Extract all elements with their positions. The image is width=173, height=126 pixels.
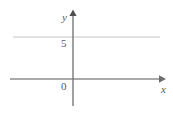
x-axis-label: x [161,84,166,95]
x-axis-arrowhead-icon [159,75,166,83]
y-axis-arrowhead-icon [69,10,76,17]
y-axis-label: y [62,12,67,23]
origin-label: 0 [61,81,67,92]
graph-canvas [0,0,173,126]
y-tick-label-5: 5 [61,38,67,49]
coordinate-plane-figure: y x 5 0 [0,0,173,126]
